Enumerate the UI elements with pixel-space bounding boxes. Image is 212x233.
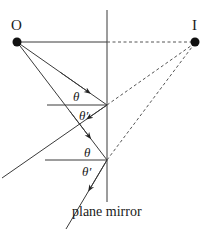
object-label: O: [11, 17, 22, 33]
virtual-ray-1: [107, 43, 195, 105]
image-label: I: [192, 17, 197, 33]
object-point: [13, 38, 22, 47]
plane-mirror-ray-diagram: O I θ θ′ θ θ′ plane mirror: [0, 0, 212, 233]
incident-ray-2: [17, 42, 107, 160]
reflected-ray-2-arrow: [90, 160, 107, 189]
angle-reflection-label-1: θ′: [79, 108, 88, 123]
angle-incidence-label-1: θ: [73, 89, 80, 104]
angle-incidence-label-2: θ: [84, 145, 91, 160]
virtual-ray-2: [107, 43, 195, 160]
mirror-caption: plane mirror: [72, 204, 142, 219]
image-point: [191, 38, 200, 47]
reflected-ray-1-arrow: [89, 105, 107, 118]
angle-reflection-label-2: θ′: [82, 164, 91, 179]
